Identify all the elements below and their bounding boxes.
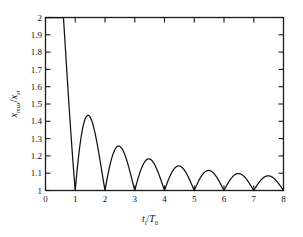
x-ticklabel: 4 bbox=[162, 194, 167, 204]
figure-panel: 1 1.1 1.2 1.3 1.4 1.5 1.6 1.7 1.8 1.9 2 … bbox=[0, 0, 303, 237]
y-ticklabel: 1.8 bbox=[31, 47, 43, 57]
x-ticklabel: 7 bbox=[252, 194, 257, 204]
y-ticklabel: 1.7 bbox=[31, 65, 43, 75]
y-ticklabel: 1.6 bbox=[31, 82, 43, 92]
x-axis-label: ti/T0 bbox=[142, 213, 158, 226]
x-ticklabel: 2 bbox=[103, 194, 108, 204]
x-axis-label-den-sub: 0 bbox=[155, 219, 158, 226]
y-axis-label-var-sub: max bbox=[14, 102, 21, 113]
x-tick-labels: 0 1 2 3 4 5 6 7 8 bbox=[43, 194, 286, 204]
x-ticklabel: 6 bbox=[222, 194, 227, 204]
y-axis-label: xmax/xst bbox=[8, 90, 21, 118]
y-ticklabel: 1.4 bbox=[31, 116, 43, 126]
svg-text:ti/T0: ti/T0 bbox=[142, 213, 158, 226]
y-ticklabel: 1.5 bbox=[31, 99, 43, 109]
y-ticklabel: 2 bbox=[38, 13, 43, 23]
chart-svg: 1 1.1 1.2 1.3 1.4 1.5 1.6 1.7 1.8 1.9 2 … bbox=[0, 0, 303, 237]
x-ticklabel: 0 bbox=[43, 194, 48, 204]
y-tick-marks bbox=[46, 18, 284, 191]
response-curve bbox=[46, 18, 284, 191]
plot-frame bbox=[46, 18, 284, 191]
svg-text:xmax/xst: xmax/xst bbox=[8, 90, 21, 118]
y-ticklabel: 1.9 bbox=[31, 30, 43, 40]
y-tick-labels: 1 1.1 1.2 1.3 1.4 1.5 1.6 1.7 1.8 1.9 2 bbox=[31, 13, 43, 196]
x-tick-marks bbox=[46, 18, 284, 191]
y-ticklabel: 1.3 bbox=[31, 134, 43, 144]
y-ticklabel: 1.2 bbox=[31, 151, 42, 161]
y-ticklabel: 1 bbox=[38, 186, 43, 196]
x-ticklabel: 5 bbox=[192, 194, 197, 204]
y-axis-label-den-sub: st bbox=[14, 90, 21, 95]
x-ticklabel: 3 bbox=[133, 194, 138, 204]
x-ticklabel: 1 bbox=[73, 194, 78, 204]
x-ticklabel: 8 bbox=[281, 194, 286, 204]
y-ticklabel: 1.1 bbox=[31, 168, 42, 178]
